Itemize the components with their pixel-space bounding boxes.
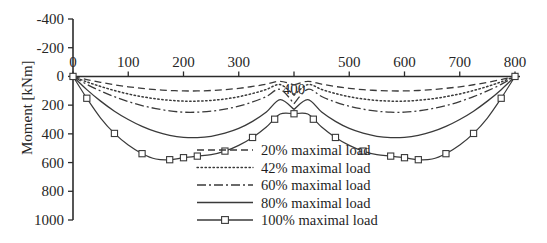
data-point-marker (388, 153, 394, 159)
data-point-marker (222, 148, 228, 154)
legend-label-3: 80% maximal load (261, 195, 371, 211)
x-tick-label: 300 (228, 54, 251, 70)
legend: 20% maximal load42% maximal load60% maxi… (197, 142, 379, 228)
data-point-marker (272, 116, 278, 122)
data-point-marker (180, 155, 186, 161)
y-axis-tick-labels: -400-20002004006008001000 (34, 11, 64, 228)
x-tick-label: 200 (172, 54, 195, 70)
x-tick-label: 800 (504, 54, 527, 70)
chart-canvas: -400-20002004006008001000 Moment [kNm] 0… (0, 0, 547, 243)
data-point-marker (249, 134, 255, 140)
legend-label-4: 100% maximal load (261, 212, 379, 228)
data-point-marker (401, 155, 407, 161)
y-tick-label: 1000 (34, 212, 64, 228)
x-tick-label: 100 (117, 54, 140, 70)
data-point-marker (84, 95, 90, 101)
x-tick-label: 700 (449, 54, 472, 70)
data-point-marker (443, 151, 449, 157)
y-axis: -400-20002004006008001000 Moment [kNm] (19, 11, 73, 228)
y-tick-label: -400 (37, 11, 65, 27)
legend-label-2: 60% maximal load (261, 177, 371, 193)
data-point-marker (498, 95, 504, 101)
x-tick-label: 500 (338, 54, 361, 70)
data-point-marker (470, 130, 476, 136)
legend-marker-4 (222, 217, 229, 224)
y-tick-label: 600 (42, 155, 65, 171)
data-point-marker (167, 157, 173, 163)
data-point-marker (70, 73, 76, 79)
data-point-marker (310, 116, 316, 122)
y-axis-title: Moment [kNm] (19, 60, 35, 155)
y-tick-label: 400 (42, 126, 65, 142)
y-tick-label: -200 (37, 40, 65, 56)
x-tick-label: 0 (69, 54, 77, 70)
moment-diagram-figure: -400-20002004006008001000 Moment [kNm] 0… (0, 0, 547, 243)
data-point-marker (512, 73, 518, 79)
legend-label-1: 42% maximal load (261, 160, 371, 176)
y-tick-label: 800 (42, 183, 65, 199)
legend-label-0: 20% maximal load (261, 142, 371, 158)
data-point-marker (139, 151, 145, 157)
data-point-marker (415, 157, 421, 163)
y-tick-label: 0 (57, 68, 65, 84)
data-point-marker (291, 111, 297, 117)
data-point-marker (194, 153, 200, 159)
x-tick-label: 600 (393, 54, 416, 70)
y-tick-label: 200 (42, 97, 65, 113)
data-point-marker (332, 134, 338, 140)
data-point-marker (111, 130, 117, 136)
